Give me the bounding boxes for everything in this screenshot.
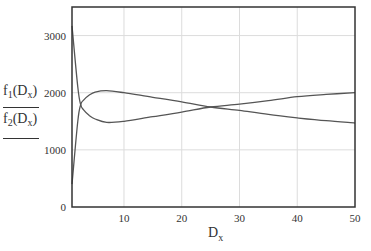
- y-label-f1: f1(Dx): [3, 84, 39, 102]
- y-label-f2: f2(Dx): [3, 112, 39, 130]
- x-tick-label: 10: [118, 212, 130, 224]
- curves: [72, 26, 355, 184]
- x-axis-label: Dx: [208, 225, 223, 243]
- line-chart: 1020304050 0100020003000: [0, 0, 371, 251]
- x-tick-labels: 1020304050: [118, 212, 361, 224]
- y-axis-label: f1(Dx) f2(Dx): [3, 84, 39, 139]
- x-tick-label: 30: [234, 212, 246, 224]
- y-tick-label: 1000: [44, 144, 67, 156]
- x-tick-label: 50: [350, 212, 362, 224]
- y-tick-label: 2000: [44, 87, 67, 99]
- x-tick-label: 20: [176, 212, 188, 224]
- y-label-divider: [3, 107, 39, 108]
- series-line-1: [72, 91, 355, 184]
- y-label-underline: [3, 138, 39, 139]
- y-tick-label: 0: [61, 201, 67, 213]
- x-tick-label: 40: [292, 212, 304, 224]
- y-tick-labels: 0100020003000: [44, 30, 67, 213]
- y-tick-label: 3000: [44, 30, 67, 42]
